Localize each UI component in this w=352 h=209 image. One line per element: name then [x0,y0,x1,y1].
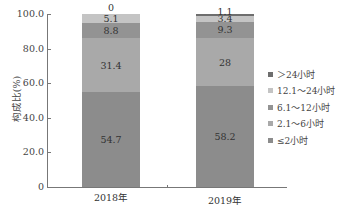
legend-label: 6.1～12小时 [277,101,330,114]
y-tick-mark [47,83,51,84]
y-tick-mark [47,14,51,15]
y-tick-mark [47,118,51,119]
y-tick-100: 100.0 [4,8,44,19]
legend-item-le2h: ≤2小时 [268,132,336,149]
bar-2019: 58.2 28 9.3 3.4 1.1 [196,14,254,187]
segment-2-6h: 28 [196,38,254,86]
y-tick-mark [47,49,51,50]
segment-gt24h-label: 1.1 [196,6,254,17]
x-label-2018: 2018年 [81,190,141,204]
x-label-2019: 2019年 [195,193,255,207]
legend-swatch [268,138,273,143]
y-tick-20: 20.0 [4,146,44,157]
legend-swatch [268,105,273,110]
legend-item-2-6h: 2.1～6小时 [268,116,336,133]
value-label: 5.1 [103,13,118,24]
y-tick-80: 80.0 [4,43,44,54]
segment-12-24h: 5.1 [82,14,140,23]
segment-6-12h: 8.8 [82,23,140,38]
legend-item-12-24h: 12.1～24小时 [268,83,336,100]
legend-label: ≤2小时 [277,134,308,147]
legend-label: 12.1～24小时 [277,84,336,97]
segment-gt24h-label: 0 [82,2,140,13]
legend-label: 2.1～6小时 [277,117,324,130]
segment-le2h: 58.2 [196,86,254,187]
value-label: 28 [219,57,231,68]
y-tick-40: 40.0 [4,112,44,123]
bar-2018: 54.7 31.4 8.8 5.1 0 [82,14,140,187]
legend-label: ＞24小时 [277,68,315,81]
y-tick-0: 0 [4,181,44,192]
legend-swatch [268,72,273,77]
x-tick-mark [167,185,168,188]
y-axis [47,14,48,188]
value-label: 9.3 [217,24,232,35]
legend-item-gt24h: ＞24小时 [268,66,336,83]
segment-le2h: 54.7 [82,92,140,187]
y-tick-mark [47,152,51,153]
segment-2-6h: 31.4 [82,38,140,92]
legend-swatch [268,121,273,126]
value-label: 58.2 [214,131,235,142]
value-label: 54.7 [100,134,121,145]
value-label: 8.8 [103,25,118,36]
legend: ＞24小时 12.1～24小时 6.1～12小时 2.1～6小时 ≤2小时 [268,66,336,149]
y-tick-60: 60.0 [4,77,44,88]
legend-swatch [268,88,273,93]
legend-item-6-12h: 6.1～12小时 [268,99,336,116]
value-label: 31.4 [100,60,121,71]
